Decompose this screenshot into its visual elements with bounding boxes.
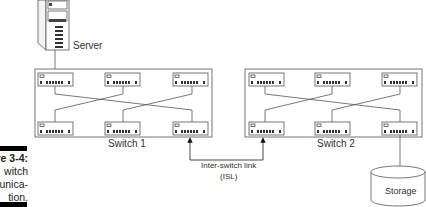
server-label: Server — [73, 40, 102, 51]
switch-1 — [35, 69, 212, 137]
isl-label: Inter-switch link — [201, 161, 256, 170]
switch-2 — [245, 69, 422, 137]
switch-2-label: Switch 2 — [317, 138, 355, 149]
isl-link — [190, 140, 263, 160]
storage-label: Storage — [385, 186, 417, 196]
isl-abbrev-label: (ISL) — [220, 172, 237, 181]
switch-1-label: Switch 1 — [108, 138, 146, 149]
san-diagram — [0, 0, 426, 207]
server-icon — [38, 0, 69, 50]
